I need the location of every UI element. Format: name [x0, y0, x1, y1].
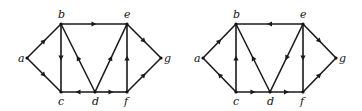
node-f: [125, 90, 128, 93]
node-label: f: [123, 95, 130, 108]
arrowhead-icon: [124, 56, 129, 61]
arrowhead-icon: [233, 56, 238, 61]
arrowhead-icon: [267, 21, 272, 26]
arrowhead-icon: [76, 89, 81, 94]
arrowhead-icon: [109, 89, 114, 94]
node-g: [334, 56, 337, 59]
arrowhead-icon: [300, 56, 305, 61]
node-label: g: [164, 52, 171, 65]
node-a: [201, 56, 204, 59]
node-b: [59, 22, 62, 25]
node-a: [25, 56, 28, 59]
node-label: d: [267, 95, 274, 108]
arrowhead-icon: [284, 89, 289, 94]
node-label: g: [339, 52, 346, 65]
node-g: [159, 56, 162, 59]
node-label: a: [18, 52, 25, 65]
node-d: [268, 90, 271, 93]
node-b: [234, 22, 237, 25]
node-label: e: [300, 8, 307, 21]
arrowhead-icon: [92, 21, 97, 26]
node-e: [301, 22, 304, 25]
node-f: [301, 90, 304, 93]
right-graph: abcdefg: [194, 8, 346, 108]
node-label: b: [58, 8, 65, 21]
node-c: [234, 90, 237, 93]
node-c: [59, 90, 62, 93]
node-label: a: [194, 52, 201, 65]
node-d: [93, 90, 96, 93]
arrowhead-icon: [251, 89, 256, 94]
node-label: b: [233, 8, 240, 21]
node-label: e: [124, 8, 131, 21]
node-label: c: [58, 95, 64, 108]
node-label: f: [299, 95, 306, 108]
node-label: c: [233, 95, 239, 108]
left-graph: abcdefg: [18, 8, 171, 108]
graph-canvas: abcdefgabcdefg: [0, 0, 362, 111]
arrowhead-icon: [58, 56, 63, 61]
node-e: [125, 22, 128, 25]
node-label: d: [92, 95, 99, 108]
